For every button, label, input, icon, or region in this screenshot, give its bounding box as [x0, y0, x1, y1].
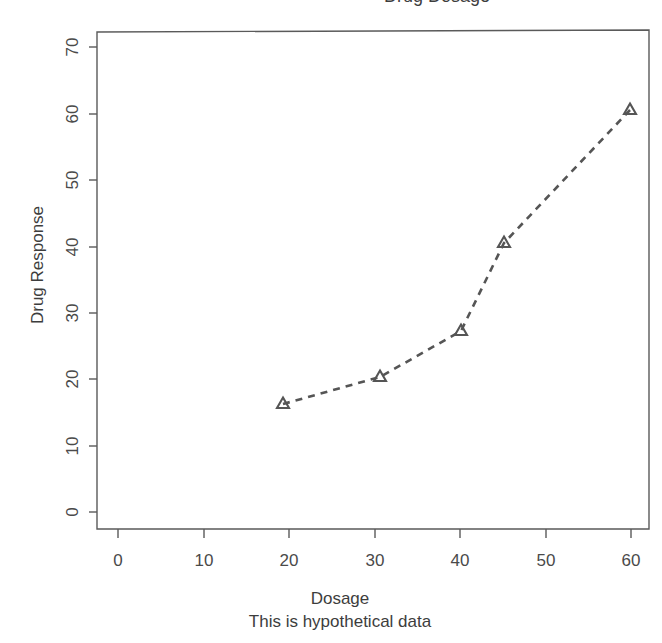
- data-point-3: [455, 325, 467, 336]
- y-tick-label-60: 60: [63, 105, 82, 124]
- y-tick-label-10: 10: [63, 437, 82, 456]
- chart-title-clipped: Drug Dosage: [384, 0, 490, 6]
- y-tick-label-70: 70: [63, 38, 82, 57]
- x-tick-label-40: 40: [451, 551, 470, 570]
- plot-frame: [97, 30, 649, 529]
- x-axis-ticks: [118, 529, 631, 538]
- x-tick-label-10: 10: [195, 551, 214, 570]
- y-tick-label-20: 20: [63, 370, 82, 389]
- chart-subtitle: This is hypothetical data: [249, 612, 432, 631]
- x-tick-label-0: 0: [113, 551, 122, 570]
- y-tick-label-30: 30: [63, 304, 82, 323]
- x-tick-label-30: 30: [366, 551, 385, 570]
- chart-canvas: Drug Dosage 70 60 50 40 30 20 10 0: [0, 0, 662, 643]
- data-point-5: [624, 104, 636, 115]
- x-axis-tick-labels: 0 10 20 30 40 50 60: [113, 551, 640, 570]
- y-axis-ticks: [89, 47, 97, 512]
- x-axis-title: Dosage: [311, 589, 370, 608]
- y-axis-title: Drug Response: [28, 206, 47, 324]
- data-point-2: [374, 371, 386, 382]
- x-tick-label-60: 60: [622, 551, 641, 570]
- chart-figure: Drug Dosage 70 60 50 40 30 20 10 0: [0, 0, 662, 643]
- y-tick-label-40: 40: [63, 238, 82, 257]
- x-tick-label-20: 20: [280, 551, 299, 570]
- data-markers: [277, 104, 636, 409]
- y-tick-label-0: 0: [63, 507, 82, 516]
- data-series-line: [283, 110, 630, 404]
- y-tick-label-50: 50: [63, 171, 82, 190]
- chart-title-text: Drug Dosage: [384, 0, 490, 6]
- y-axis-tick-labels: 70 60 50 40 30 20 10 0: [63, 38, 82, 517]
- x-tick-label-50: 50: [537, 551, 556, 570]
